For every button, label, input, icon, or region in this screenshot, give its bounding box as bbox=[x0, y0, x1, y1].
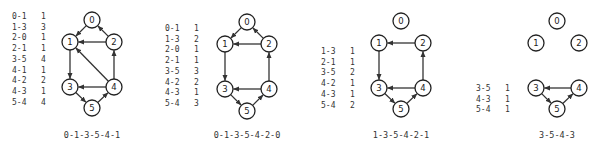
node-label: 1 bbox=[376, 38, 381, 48]
edge-label: 5-4 bbox=[165, 99, 180, 108]
edge-label: 3-5 bbox=[165, 67, 180, 76]
cycle-caption: 3-5-4-3 bbox=[539, 130, 575, 140]
edge-4-1 bbox=[76, 48, 108, 81]
edge-weight-table: 0-111-332-012-113-544-114-224-315-44 bbox=[12, 12, 46, 107]
diagram-svg: 0-111-332-012-113-544-114-224-315-440123… bbox=[0, 0, 602, 149]
edge-label: 4-3 bbox=[321, 90, 336, 99]
node-label: 3 bbox=[533, 83, 538, 93]
edge-label: 3-5 bbox=[12, 55, 27, 64]
edge-weight: 1 bbox=[505, 95, 510, 104]
edge-label: 0-1 bbox=[165, 24, 180, 33]
edge-weight: 2 bbox=[194, 78, 199, 87]
edge-label: 4-1 bbox=[12, 66, 27, 75]
node-label: 1 bbox=[222, 39, 227, 49]
node-label: 5 bbox=[554, 104, 559, 114]
edge-weight: 2 bbox=[350, 68, 355, 77]
node-label: 4 bbox=[266, 84, 271, 94]
edge-weight: 1 bbox=[350, 79, 355, 88]
node-label: 1 bbox=[533, 38, 538, 48]
node-label: 0 bbox=[398, 16, 403, 26]
node-label: 2 bbox=[576, 38, 581, 48]
edge-label: 2-1 bbox=[165, 56, 180, 65]
edge-label: 4-2 bbox=[165, 78, 180, 87]
edges bbox=[379, 43, 423, 103]
node-label: 5 bbox=[244, 106, 249, 116]
edge-label: 2-1 bbox=[12, 44, 27, 53]
edge-3-5 bbox=[231, 95, 241, 105]
node-label: 2 bbox=[266, 39, 271, 49]
edge-label: 2-0 bbox=[165, 45, 180, 54]
graph-panel: 3-514-315-410123453-5-4-3 bbox=[476, 13, 587, 140]
nodes: 012345 bbox=[217, 14, 277, 119]
edge-weight: 1 bbox=[41, 87, 46, 96]
edge-weight: 3 bbox=[194, 67, 199, 76]
edge-label: 4-2 bbox=[321, 79, 336, 88]
edge-3-5 bbox=[542, 94, 551, 103]
node-label: 3 bbox=[222, 84, 227, 94]
edge-label: 2-1 bbox=[321, 58, 336, 67]
edge-weight: 1 bbox=[41, 33, 46, 42]
node-label: 4 bbox=[111, 82, 116, 92]
edge-weight: 4 bbox=[41, 98, 46, 107]
edge-2-0 bbox=[253, 28, 263, 38]
edge-label: 1-3 bbox=[321, 47, 336, 56]
edge-label: 2-0 bbox=[12, 33, 27, 42]
edge-label: 3-5 bbox=[476, 84, 491, 93]
cycle-caption: 1-3-5-4-2-1 bbox=[373, 130, 429, 140]
panels-layer: 0-111-332-012-113-544-114-224-315-440123… bbox=[12, 12, 587, 140]
edge-weight-table: 1-312-113-524-214-315-42 bbox=[321, 47, 355, 110]
node-label: 0 bbox=[89, 15, 94, 25]
edge-weight: 1 bbox=[194, 56, 199, 65]
graph-panel: 1-312-113-524-214-315-420123451-3-5-4-2-… bbox=[321, 13, 431, 140]
edge-weight: 1 bbox=[194, 45, 199, 54]
node-label: 2 bbox=[111, 37, 116, 47]
node-label: 4 bbox=[420, 83, 425, 93]
edge-label: 3-5 bbox=[321, 68, 336, 77]
edge-weight: 3 bbox=[194, 99, 199, 108]
edge-3-5 bbox=[385, 94, 395, 104]
graph-cycle-diagram: 0-111-332-012-113-544-114-224-315-440123… bbox=[0, 0, 602, 149]
node-label: 0 bbox=[554, 16, 559, 26]
edge-label: 4-3 bbox=[12, 87, 27, 96]
node-label: 1 bbox=[67, 37, 72, 47]
edge-0-1 bbox=[231, 28, 241, 38]
edge-weight-table: 0-111-322-012-113-534-224-315-43 bbox=[165, 24, 199, 108]
edge-weight: 1 bbox=[350, 47, 355, 56]
edge-5-4 bbox=[407, 94, 417, 104]
edge-weight: 1 bbox=[350, 58, 355, 67]
edge-3-5 bbox=[76, 93, 86, 103]
edge-weight: 2 bbox=[194, 35, 199, 44]
nodes: 012345 bbox=[528, 13, 587, 117]
edge-2-0 bbox=[98, 26, 108, 36]
graph-panel: 0-111-332-012-113-544-114-224-315-440123… bbox=[12, 12, 122, 140]
edge-label: 4-2 bbox=[12, 76, 27, 85]
edge-weight: 1 bbox=[350, 90, 355, 99]
node-label: 2 bbox=[420, 38, 425, 48]
cycle-caption: 0-1-3-5-4-2-0 bbox=[214, 130, 281, 140]
edge-0-1 bbox=[76, 26, 86, 36]
edge-label: 0-1 bbox=[12, 12, 27, 21]
node-label: 0 bbox=[244, 17, 249, 27]
node-label: 5 bbox=[89, 103, 94, 113]
node-label: 3 bbox=[376, 83, 381, 93]
edge-weight: 1 bbox=[505, 84, 510, 93]
edge-weight: 1 bbox=[41, 12, 46, 21]
edge-label: 5-4 bbox=[321, 101, 336, 110]
node-label: 5 bbox=[398, 104, 403, 114]
edge-label: 1-3 bbox=[165, 35, 180, 44]
edge-weight: 1 bbox=[194, 24, 199, 33]
edge-5-4 bbox=[98, 93, 108, 103]
edge-5-4 bbox=[253, 95, 263, 105]
edge-label: 4-3 bbox=[165, 88, 180, 97]
node-label: 3 bbox=[67, 82, 72, 92]
edge-weight: 1 bbox=[194, 88, 199, 97]
edge-weight: 3 bbox=[41, 23, 46, 32]
node-label: 4 bbox=[576, 83, 581, 93]
edge-weight: 2 bbox=[41, 76, 46, 85]
graph-panel: 0-111-322-012-113-534-224-315-430123450-… bbox=[165, 14, 280, 140]
edge-label: 5-4 bbox=[476, 105, 491, 114]
edge-weight: 1 bbox=[505, 105, 510, 114]
edge-weight: 1 bbox=[41, 44, 46, 53]
nodes: 012345 bbox=[371, 13, 431, 117]
edge-weight: 1 bbox=[41, 66, 46, 75]
